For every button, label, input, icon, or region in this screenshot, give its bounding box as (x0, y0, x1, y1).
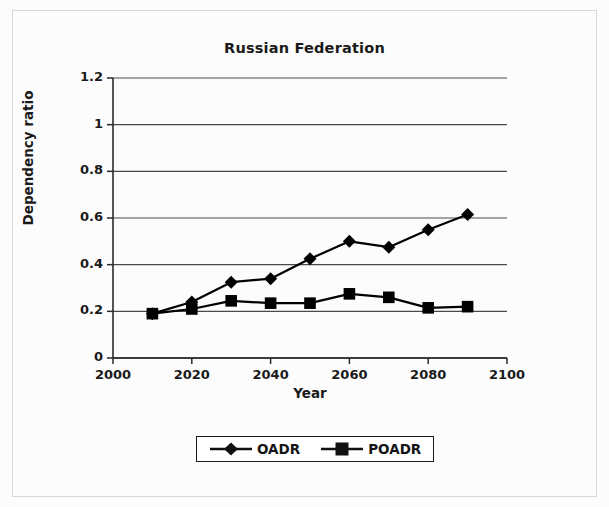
data-point-marker (265, 297, 277, 309)
chart-legend: OADR POADR (196, 436, 434, 462)
data-point-marker (264, 272, 277, 285)
chart-figure: Russian Federation Dependency ratio Year… (0, 0, 609, 507)
data-point-marker (462, 301, 474, 313)
data-point-marker (147, 308, 159, 320)
gridlines (113, 78, 507, 358)
data-point-marker (422, 223, 435, 236)
x-tick-label: 2020 (162, 367, 222, 382)
data-point-marker (225, 276, 238, 289)
x-tick-label: 2080 (398, 367, 458, 382)
data-point-marker (186, 303, 198, 315)
data-point-marker (304, 297, 316, 309)
y-tick-label: 1 (59, 116, 103, 131)
legend-item-poadr[interactable]: POADR (320, 441, 421, 457)
x-tick-label: 2060 (319, 367, 379, 382)
legend-label-oadr: OADR (257, 441, 300, 457)
data-point-marker (382, 241, 395, 254)
x-tick-label: 2040 (241, 367, 301, 382)
legend-label-poadr: POADR (368, 441, 421, 457)
legend-item-oadr[interactable]: OADR (209, 441, 300, 457)
data-point-marker (422, 302, 434, 314)
data-point-marker (304, 252, 317, 265)
y-tick-label: 0.8 (59, 162, 103, 177)
y-tick-label: 0 (59, 349, 103, 364)
data-point-marker (225, 295, 237, 307)
x-tick-label: 2000 (83, 367, 143, 382)
y-axis-ticks (107, 78, 113, 358)
diamond-marker-icon (209, 441, 253, 457)
data-series-layer (146, 208, 474, 320)
y-tick-label: 1.2 (59, 69, 103, 84)
data-point-marker (461, 208, 474, 221)
x-tick-label: 2100 (477, 367, 537, 382)
square-marker-icon (320, 441, 364, 457)
data-point-marker (383, 292, 395, 304)
y-tick-label: 0.2 (59, 302, 103, 317)
y-tick-label: 0.6 (59, 209, 103, 224)
data-point-marker (343, 235, 356, 248)
y-tick-label: 0.4 (59, 256, 103, 271)
data-point-marker (344, 288, 356, 300)
x-axis-ticks (113, 358, 507, 364)
